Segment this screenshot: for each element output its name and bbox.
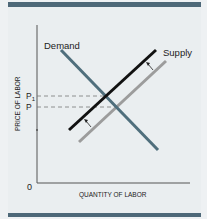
supply-label: Supply: [163, 47, 192, 58]
p1-label: P1: [26, 91, 36, 102]
shift-arrow-lower: [84, 119, 91, 127]
supply-original-line: [79, 61, 166, 142]
supply-demand-chart: Demand Supply P1 P 0 QUANTITY OF LABOR P…: [0, 0, 207, 219]
p-label: P: [26, 102, 32, 112]
y-axis-label: PRICE OF LABOR: [14, 76, 21, 131]
demand-line: [61, 50, 158, 150]
origin-label: 0: [27, 182, 32, 192]
x-axis-label: QUANTITY OF LABOR: [79, 191, 147, 199]
demand-label: Demand: [44, 40, 80, 51]
shift-arrow-upper: [146, 62, 153, 70]
supply-new-line: [69, 50, 156, 130]
axis-tick-dot: [36, 129, 38, 131]
